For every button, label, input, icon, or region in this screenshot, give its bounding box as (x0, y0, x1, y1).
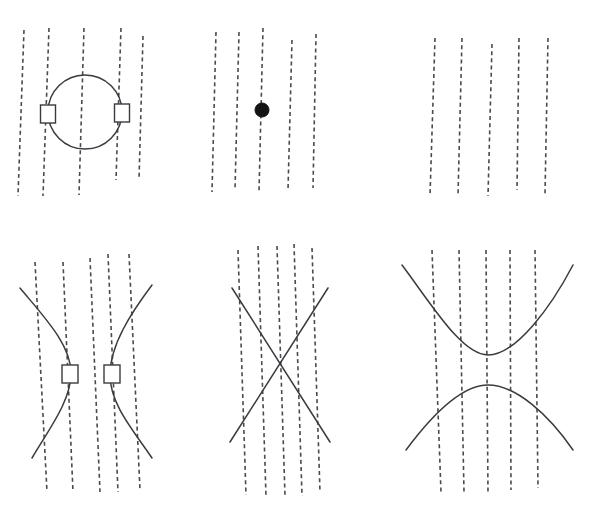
vertex-marker (41, 105, 56, 123)
vertex-marker (115, 104, 130, 122)
vertex-marker (104, 365, 120, 383)
figure-background (0, 0, 615, 532)
vertex-marker (62, 365, 78, 383)
point-conic-dot (255, 103, 269, 117)
figure-canvas (0, 0, 615, 532)
conic-sections-figure (0, 0, 615, 532)
